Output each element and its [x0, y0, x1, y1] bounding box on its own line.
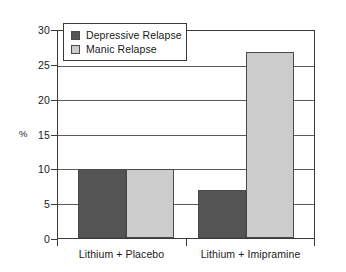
ytick-mark-20: [51, 100, 57, 101]
legend-swatch-manic-relapse: [71, 45, 80, 54]
bar-imipramine-manic: [246, 52, 294, 238]
legend: Depressive Relapse Manic Relapse: [63, 23, 187, 61]
ytick-mark-10: [51, 169, 57, 170]
legend-item-depressive-relapse: Depressive Relapse: [71, 28, 180, 42]
ytick-label-10: 10: [10, 164, 50, 174]
legend-swatch-depressive-relapse: [71, 31, 80, 40]
xtick-label-lithium-placebo: Lithium + Placebo: [57, 248, 186, 260]
y-axis-title: %: [19, 129, 27, 139]
legend-item-manic-relapse: Manic Relapse: [71, 42, 180, 56]
ytick-mark-25: [51, 65, 57, 66]
bar-chart: Depressive Relapse Manic Relapse 30 25 2…: [0, 0, 346, 272]
ytick-label-25: 25: [10, 60, 50, 70]
legend-label-manic-relapse: Manic Relapse: [86, 44, 157, 55]
xtick-mark-left: [57, 239, 58, 246]
ytick-label-5: 5: [10, 199, 50, 209]
bar-imipramine-depressive: [198, 190, 246, 238]
xtick-mark-right: [314, 239, 315, 246]
ytick-label-20: 20: [10, 95, 50, 105]
ytick-mark-5: [51, 204, 57, 205]
bar-placebo-depressive: [78, 169, 126, 238]
ytick-mark-15: [51, 135, 57, 136]
ytick-label-15: 15: [10, 130, 50, 140]
plot-area: Depressive Relapse Manic Relapse: [57, 30, 315, 239]
ytick-label-30: 30: [10, 25, 50, 35]
legend-label-depressive-relapse: Depressive Relapse: [86, 30, 182, 41]
xtick-mark-middle: [186, 239, 187, 246]
xtick-label-lithium-imipramine: Lithium + Imipramine: [186, 248, 315, 260]
ytick-label-0: 0: [10, 234, 50, 244]
bar-placebo-manic: [126, 169, 174, 238]
ytick-mark-30: [51, 30, 57, 31]
